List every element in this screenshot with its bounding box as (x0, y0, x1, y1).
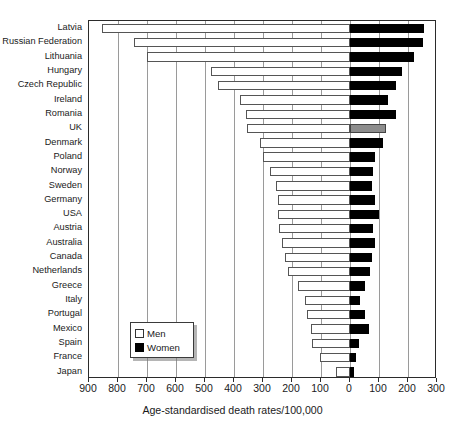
chart-legend: Men Women (130, 322, 194, 358)
bar-men (282, 238, 350, 247)
x-axis-tick-label: 100 (311, 382, 329, 394)
x-axis-tick-label: 400 (224, 382, 242, 394)
bar-men (278, 195, 351, 204)
bar-row (89, 236, 435, 251)
bar-women (350, 353, 356, 362)
y-axis-label: Spain (59, 335, 83, 350)
x-axis-tick-label: 900 (79, 382, 97, 394)
bar-row (89, 307, 435, 322)
bar-row (89, 279, 435, 294)
bar-women (350, 81, 396, 90)
bar-men (147, 52, 350, 61)
x-axis-tick-label: 100 (369, 382, 387, 394)
bar-row (89, 107, 435, 122)
x-axis-tick-label: 500 (195, 382, 213, 394)
bar-women (350, 281, 365, 290)
bar-men (102, 24, 350, 33)
y-axis-label: Canada (50, 249, 82, 264)
y-axis-label: Austria (53, 220, 82, 235)
y-axis-label: Mexico (53, 321, 82, 336)
bar-men (278, 210, 351, 219)
bar-row (89, 21, 435, 36)
y-axis-label: Poland (53, 149, 82, 164)
men-swatch-icon (135, 329, 144, 338)
bar-women (350, 67, 402, 76)
x-axis-tick-label: 200 (398, 382, 416, 394)
bar-men (288, 267, 350, 276)
bar-women (350, 339, 359, 348)
x-axis-tick-label: 300 (427, 382, 445, 394)
bar-row (89, 179, 435, 194)
bar-row (89, 121, 435, 136)
y-axis-label: Hungary (47, 63, 82, 78)
legend-item-women: Women (135, 340, 193, 354)
x-axis-title: Age-standardised death rates/100,000 (0, 404, 465, 416)
bar-women (350, 181, 372, 190)
y-axis-label: Greece (52, 278, 82, 293)
bar-row (89, 35, 435, 50)
bar-row (89, 207, 435, 222)
y-axis-label: USA (63, 206, 82, 221)
y-axis-label: Norway (51, 163, 82, 178)
bar-women (350, 224, 373, 233)
bar-row (89, 293, 435, 308)
bar-women (350, 110, 396, 119)
bar-row (89, 64, 435, 79)
y-axis-label: Denmark (45, 135, 82, 150)
bar-women (350, 238, 375, 247)
bar-men (211, 67, 350, 76)
y-axis-label: France (53, 349, 82, 364)
x-axis: 9008007006005004003002001000100200300 (88, 378, 436, 400)
bar-men (307, 310, 351, 319)
bar-men (305, 296, 350, 305)
bar-row (89, 221, 435, 236)
y-axis-label: Czech Republic (18, 77, 82, 92)
bar-women (350, 296, 360, 305)
bar-row (89, 264, 435, 279)
bar-men (312, 339, 350, 348)
bar-women (350, 52, 414, 61)
bar-men (298, 281, 350, 290)
bar-row (89, 164, 435, 179)
bar-women (350, 324, 369, 333)
bar-men (240, 95, 350, 104)
x-axis-tick-label: 700 (137, 382, 155, 394)
bar-men (311, 324, 350, 333)
bar-women (350, 152, 375, 161)
bar-women (350, 210, 379, 219)
x-axis-tick-label: 600 (166, 382, 184, 394)
y-axis-label: Australia (46, 235, 82, 250)
bar-women (350, 95, 388, 104)
bar-row (89, 136, 435, 151)
bar-men (276, 181, 350, 190)
bar-row (89, 150, 435, 165)
y-axis-label: Japan (57, 364, 82, 379)
bar-women (350, 253, 372, 262)
y-axis-label: Romania (45, 106, 82, 121)
x-axis-tick-label: 200 (282, 382, 300, 394)
legend-label-men: Men (147, 328, 166, 339)
bar-women (350, 138, 383, 147)
bar-women (350, 38, 423, 47)
bar-women (350, 24, 424, 33)
legend-item-men: Men (135, 326, 193, 340)
bar-women-highlighted (350, 124, 386, 133)
y-axis-label: Russian Federation (2, 34, 82, 49)
bar-men (247, 124, 350, 133)
bar-row (89, 250, 435, 265)
bar-men (270, 167, 350, 176)
bar-women (350, 167, 373, 176)
x-axis-tick-label: 800 (108, 382, 126, 394)
bar-men (263, 152, 350, 161)
bar-men (260, 138, 350, 147)
bar-women (350, 367, 354, 376)
x-axis-tick-label: 300 (253, 382, 271, 394)
y-axis-label: Italy (65, 292, 82, 307)
x-axis-tick-label: 0 (346, 382, 352, 394)
bar-men (285, 253, 350, 262)
y-axis-label: Portugal (48, 306, 82, 321)
y-axis-label: Sweden (49, 178, 82, 193)
women-swatch-icon (135, 343, 144, 352)
bar-women (350, 267, 370, 276)
y-axis-label: UK (69, 120, 82, 135)
